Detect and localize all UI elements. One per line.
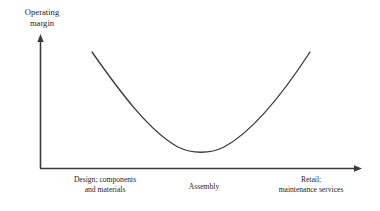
x-tick-label-design: Design; components and materials (45, 175, 165, 194)
x-tick-label-retail-line-2: maintenance services (251, 185, 371, 195)
x-tick-label-retail-line-1: Retail; (251, 175, 371, 185)
x-tick-label-assembly-line-1: Assembly (164, 182, 244, 192)
x-axis-arrow-icon (354, 165, 362, 171)
y-axis-label-line-1: Operating (0, 7, 84, 18)
x-tick-label-assembly: Assembly (164, 182, 244, 192)
smile-curve-path (92, 52, 310, 152)
x-tick-label-design-line-1: Design; components (45, 175, 165, 185)
y-axis-arrow-icon (37, 34, 43, 42)
y-axis-label-line-2: margin (0, 18, 84, 29)
x-tick-label-design-line-2: and materials (45, 185, 165, 195)
y-axis-label: Operating margin (0, 7, 84, 29)
x-tick-label-retail: Retail; maintenance services (251, 175, 371, 194)
smile-curve-figure: Operating margin Design; components and … (0, 0, 380, 211)
